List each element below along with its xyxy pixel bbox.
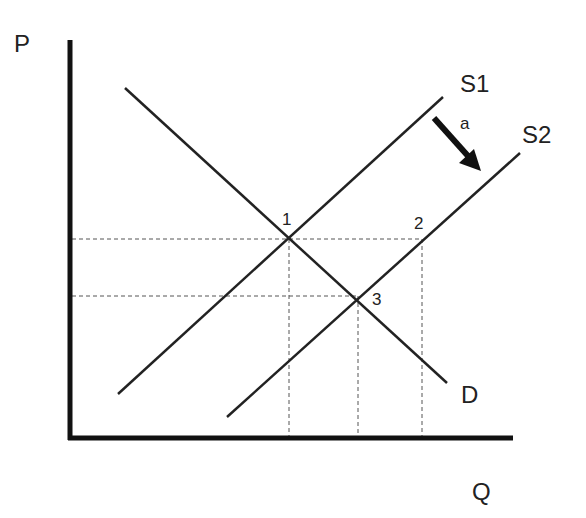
supply-curve-s2	[227, 153, 520, 417]
point-3-label: 3	[372, 290, 381, 309]
supply-curve-s1	[118, 97, 443, 394]
point-1-label: 1	[282, 210, 291, 229]
shift-arrow-icon	[434, 118, 481, 171]
y-axis-label: P	[14, 30, 30, 57]
point-2-label: 2	[414, 214, 423, 233]
shift-label: a	[460, 114, 470, 133]
guide-lines	[72, 239, 422, 436]
supply-demand-diagram: P Q S1 S2 D a 1 2 3	[0, 0, 586, 518]
s1-label: S1	[460, 70, 489, 97]
demand-curve	[125, 88, 447, 383]
s2-label: S2	[522, 121, 551, 148]
x-axis-label: Q	[472, 478, 491, 505]
demand-label: D	[461, 381, 478, 408]
